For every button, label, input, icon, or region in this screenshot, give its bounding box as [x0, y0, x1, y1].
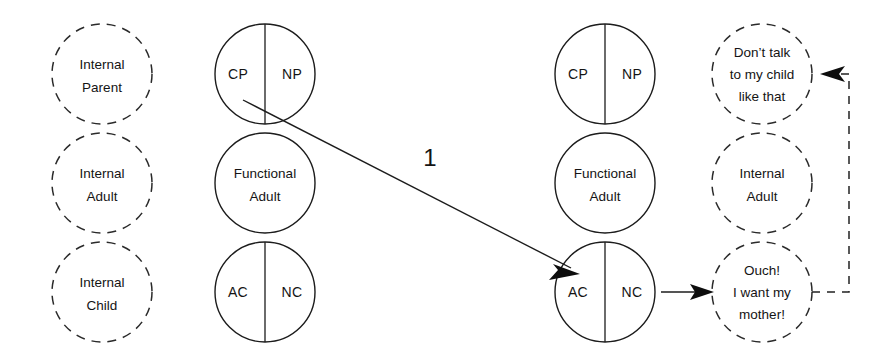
label-np-left: NP — [282, 66, 302, 82]
label-nc-right: NC — [621, 284, 642, 300]
internal-adult-circle — [52, 133, 152, 233]
internal-adult-label-line1: Internal — [79, 166, 124, 181]
circle-internal-child-response: Ouch! I want my mother! — [712, 242, 812, 342]
internal-adult-label-line2: Adult — [87, 189, 118, 204]
transaction-1-number: 1 — [423, 144, 436, 171]
transactional-analysis-diagram: Internal Parent Internal Adult Internal … — [0, 0, 895, 362]
circle-internal-adult-right: Internal Adult — [712, 133, 812, 233]
internal-parent-label-line1: Internal — [79, 57, 124, 72]
internal-child-label-line2: Child — [87, 298, 118, 313]
parent-response-line2: to my child — [730, 67, 795, 82]
connector-child-to-response — [661, 284, 714, 300]
functional-adult-right-line2: Adult — [590, 189, 621, 204]
circle-parent-cp-np-left: CP NP — [215, 24, 315, 124]
circle-internal-parent: Internal Parent — [52, 24, 152, 124]
circle-internal-adult: Internal Adult — [52, 133, 152, 233]
column-internal-structure-right: Don’t talk to my child like that Interna… — [712, 24, 812, 342]
circle-internal-child: Internal Child — [52, 242, 152, 342]
child-response-line2: I want my — [733, 285, 791, 300]
column-functional-structure-left: CP NP Functional Adult AC NC — [215, 24, 315, 342]
label-cp-right: CP — [568, 66, 588, 82]
circle-child-ac-nc-right: AC NC — [555, 242, 655, 342]
internal-adult-right-circle — [712, 133, 812, 233]
label-ac-left: AC — [228, 284, 248, 300]
label-ac-right: AC — [568, 284, 588, 300]
internal-adult-right-line2: Adult — [747, 189, 778, 204]
internal-feedback-path — [812, 74, 849, 292]
internal-parent-label-line2: Parent — [82, 80, 122, 95]
circle-functional-adult-left: Functional Adult — [215, 133, 315, 233]
internal-parent-circle — [52, 24, 152, 124]
functional-adult-right-line1: Functional — [574, 166, 636, 181]
parent-response-line3: like that — [739, 89, 786, 104]
child-response-line1: Ouch! — [744, 263, 780, 278]
functional-adult-left-line1: Functional — [234, 166, 296, 181]
parent-response-line1: Don’t talk — [734, 45, 791, 60]
connector-internal-feedback-loop — [812, 66, 849, 292]
column-functional-structure-right: CP NP Functional Adult AC NC — [555, 24, 655, 342]
functional-adult-circle-right — [555, 133, 655, 233]
label-np-right: NP — [622, 66, 642, 82]
circle-internal-parent-response: Don’t talk to my child like that — [712, 24, 812, 124]
label-nc-left: NC — [281, 284, 302, 300]
diagram-canvas: Internal Parent Internal Adult Internal … — [0, 0, 895, 362]
circle-child-ac-nc-left: AC NC — [215, 242, 315, 342]
circle-parent-cp-np-right: CP NP — [555, 24, 655, 124]
child-response-line3: mother! — [739, 307, 785, 322]
functional-adult-left-line2: Adult — [250, 189, 281, 204]
functional-adult-circle-left — [215, 133, 315, 233]
internal-child-label-line1: Internal — [79, 275, 124, 290]
internal-adult-right-line1: Internal — [739, 166, 784, 181]
label-cp-left: CP — [228, 66, 248, 82]
circle-functional-adult-right: Functional Adult — [555, 133, 655, 233]
column-internal-structure-left: Internal Parent Internal Adult Internal … — [52, 24, 152, 342]
internal-child-circle — [52, 242, 152, 342]
